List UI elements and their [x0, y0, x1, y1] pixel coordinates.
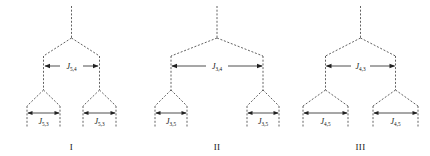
top-coupling-label: J3,4	[212, 62, 222, 72]
bottom-left-coupling-label: J3,5	[166, 117, 176, 127]
arrowhead-right	[111, 111, 116, 115]
arrowhead-right	[274, 111, 279, 115]
arrowhead-right	[413, 111, 418, 115]
branch-left-1	[44, 38, 72, 56]
arrowhead-left	[247, 111, 252, 115]
measure-bottom-right	[247, 111, 279, 115]
branch-right-1	[361, 38, 396, 56]
arrowhead-right	[182, 111, 187, 115]
measure-bottom-right	[373, 111, 418, 115]
panel-3: J4,3 J4,5 J4,5	[291, 0, 430, 156]
arrowhead-left	[83, 111, 88, 115]
branch-left-2a	[27, 90, 44, 106]
branch-left-2a	[155, 90, 171, 106]
arrowhead-left	[326, 64, 332, 68]
branch-left-2a	[303, 90, 326, 106]
branch-right-2a	[247, 90, 263, 106]
arrowhead-right	[257, 64, 263, 68]
branch-left-2b	[171, 90, 187, 106]
panel-2: J3,4 J3,5 J3,5	[143, 0, 291, 156]
arrowhead-left	[45, 64, 51, 68]
panel-2-roman-numeral: II	[143, 142, 291, 152]
top-coupling-label: J4,3	[355, 62, 365, 72]
arrowhead-left	[171, 64, 177, 68]
panel-3-diagram: J4,3 J4,5 J4,5	[291, 0, 430, 140]
branch-left-2b	[326, 90, 349, 106]
measure-bottom-right	[83, 111, 116, 115]
bottom-right-coupling-label: J4,5	[390, 117, 400, 127]
branch-right-2b	[100, 90, 117, 106]
panel-2-diagram: J3,4 J3,5 J3,5	[143, 0, 291, 140]
branch-right-2a	[83, 90, 100, 106]
panel-1: J5,4 J5,3	[0, 0, 143, 156]
branch-left-1	[171, 38, 217, 56]
branch-right-1	[72, 38, 100, 56]
arrowhead-left	[155, 111, 160, 115]
measure-bottom-left	[27, 111, 60, 115]
arrowhead-right	[93, 64, 99, 68]
measure-bottom-left	[155, 111, 187, 115]
top-coupling-label: J5,4	[66, 62, 76, 72]
arrowhead-left	[303, 111, 308, 115]
bottom-right-coupling-label: J5,3	[94, 117, 104, 127]
panel-1-roman-numeral: I	[0, 142, 143, 152]
arrowhead-right	[343, 111, 348, 115]
branch-left-1	[326, 38, 361, 56]
bottom-left-coupling-label: J4,5	[320, 117, 330, 127]
arrowhead-left	[27, 111, 32, 115]
branch-right-2b	[263, 90, 279, 106]
panel-3-roman-numeral: III	[291, 142, 430, 152]
arrowhead-right	[55, 111, 60, 115]
branch-right-1	[217, 38, 263, 56]
arrowhead-right	[390, 64, 396, 68]
splitting-tree-figure: J5,4 J5,3	[0, 0, 430, 156]
branch-left-2b	[44, 90, 61, 106]
bottom-left-coupling-label: J5,3	[38, 117, 48, 127]
panel-1-diagram: J5,4 J5,3	[0, 0, 143, 140]
branch-right-2a	[373, 90, 396, 106]
bottom-right-coupling-label: J3,5	[258, 117, 268, 127]
measure-bottom-left	[303, 111, 348, 115]
branch-right-2b	[396, 90, 419, 106]
arrowhead-left	[373, 111, 378, 115]
